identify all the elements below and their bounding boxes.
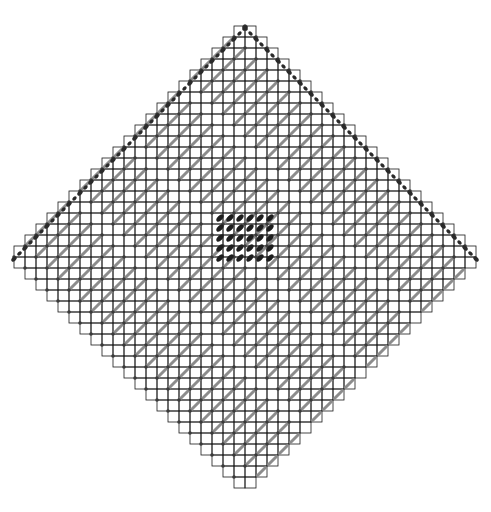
stripe: [379, 347, 387, 355]
grid-cell: [102, 345, 113, 356]
stripe: [236, 292, 244, 300]
boundary-dimer: [445, 228, 451, 234]
vertex-marker: [276, 167, 280, 171]
grid-cell: [223, 136, 234, 147]
boundary-dimer: [379, 162, 385, 168]
stripe: [280, 380, 288, 388]
grid-cell: [256, 103, 267, 114]
boundary-dimer: [368, 151, 374, 157]
grid-cell: [190, 389, 201, 400]
grid-cell: [212, 103, 223, 114]
vertex-marker: [287, 112, 291, 116]
stripe: [280, 424, 288, 432]
grid-cell: [421, 246, 432, 257]
stripe: [280, 160, 288, 168]
stripe: [324, 380, 332, 388]
stripe: [225, 369, 233, 377]
vertex-marker: [243, 266, 247, 270]
grid-cell: [322, 323, 333, 334]
vertex-marker: [34, 255, 38, 259]
grid-cell: [311, 136, 322, 147]
grid-cell: [80, 323, 91, 334]
grid-cell: [311, 290, 322, 301]
grid-cell: [245, 356, 256, 367]
stripe: [302, 292, 310, 300]
grid-cell: [80, 235, 91, 246]
stripe: [302, 116, 310, 124]
stripe: [247, 83, 255, 91]
vertex-marker: [265, 442, 269, 446]
stripe: [181, 259, 189, 267]
grid-cell: [289, 334, 300, 345]
vertex-marker: [265, 178, 269, 182]
vertex-marker: [210, 79, 214, 83]
vertex-marker: [177, 310, 181, 314]
grid-cell: [355, 224, 366, 235]
stripe: [280, 358, 288, 366]
grid-cell: [256, 81, 267, 92]
grid-cell: [289, 136, 300, 147]
vertex-marker: [232, 211, 236, 215]
stripe: [280, 226, 288, 234]
stripe: [269, 149, 277, 157]
vertex-marker: [265, 266, 269, 270]
grid-cell: [91, 290, 102, 301]
grid-cell: [388, 323, 399, 334]
stripe: [302, 248, 310, 256]
stripe: [93, 281, 101, 289]
grid-cell: [113, 202, 124, 213]
grid-cell: [366, 268, 377, 279]
stripe: [357, 325, 365, 333]
vertex-marker: [232, 79, 236, 83]
stripe: [291, 435, 299, 443]
vertex-marker: [331, 156, 335, 160]
vertex-marker: [254, 343, 258, 347]
grid-cell: [223, 92, 234, 103]
vertex-marker: [232, 299, 236, 303]
stripe: [214, 72, 222, 80]
grid-cell: [245, 477, 256, 488]
stripe: [159, 237, 167, 245]
vertex-marker: [298, 277, 302, 281]
grid-cell: [300, 235, 311, 246]
grid-cell: [223, 158, 234, 169]
stripe: [203, 237, 211, 245]
vertex-marker: [199, 420, 203, 424]
stripe: [104, 314, 112, 322]
vertex-marker: [133, 332, 137, 336]
grid-cell: [124, 191, 135, 202]
stripe: [335, 193, 343, 201]
stripe: [412, 270, 420, 278]
stripe: [346, 182, 354, 190]
grid-cell: [234, 345, 245, 356]
grid-cell: [344, 323, 355, 334]
grid-cell: [267, 202, 278, 213]
grid-cell: [58, 301, 69, 312]
vertex-marker: [353, 332, 357, 336]
vertex-marker: [221, 376, 225, 380]
vertex-marker: [155, 244, 159, 248]
stripe: [192, 116, 200, 124]
stripe: [423, 303, 431, 311]
vertex-marker: [221, 464, 225, 468]
stripe: [335, 259, 343, 267]
grid-cell: [135, 268, 146, 279]
grid-cell: [256, 268, 267, 279]
core-dimer: [225, 223, 235, 233]
grid-cell: [355, 312, 366, 323]
grid-cell: [289, 378, 300, 389]
grid-cell: [212, 455, 223, 466]
vertex-marker: [309, 156, 313, 160]
grid-cell: [311, 114, 322, 125]
stripe: [93, 303, 101, 311]
vertex-marker: [265, 310, 269, 314]
stripe: [258, 314, 266, 322]
grid-cell: [146, 158, 157, 169]
vertex-marker: [221, 354, 225, 358]
stripe: [93, 237, 101, 245]
grid-cell: [267, 169, 278, 180]
vertex-marker: [177, 178, 181, 182]
vertex-marker: [232, 343, 236, 347]
vertex-marker: [133, 244, 137, 248]
stripe: [269, 105, 277, 113]
